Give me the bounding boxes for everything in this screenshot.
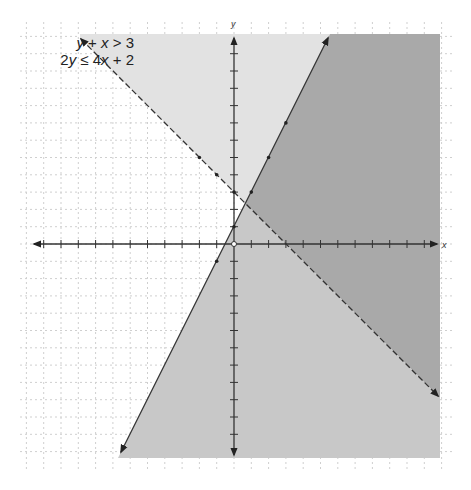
legend2-op1: ≤ 4	[76, 51, 101, 68]
x-axis-label: x	[441, 240, 447, 250]
legend1-var-x: x	[101, 34, 109, 51]
legend1-op1: +	[84, 34, 101, 51]
legend1-op2: > 3	[109, 34, 134, 51]
legend1-var-y: y	[76, 34, 84, 51]
legend-inequality-1: y + x > 3	[44, 34, 134, 51]
y-axis-label: y	[230, 19, 236, 29]
legend-inequality-2: 2y ≤ 4x + 2	[20, 51, 134, 68]
legend2-var-x: x	[101, 51, 109, 68]
inequality-graph: x y	[0, 0, 471, 490]
legend2-coef: 2	[60, 51, 68, 68]
origin-marker	[232, 242, 237, 247]
legend2-op2: + 2	[109, 51, 134, 68]
